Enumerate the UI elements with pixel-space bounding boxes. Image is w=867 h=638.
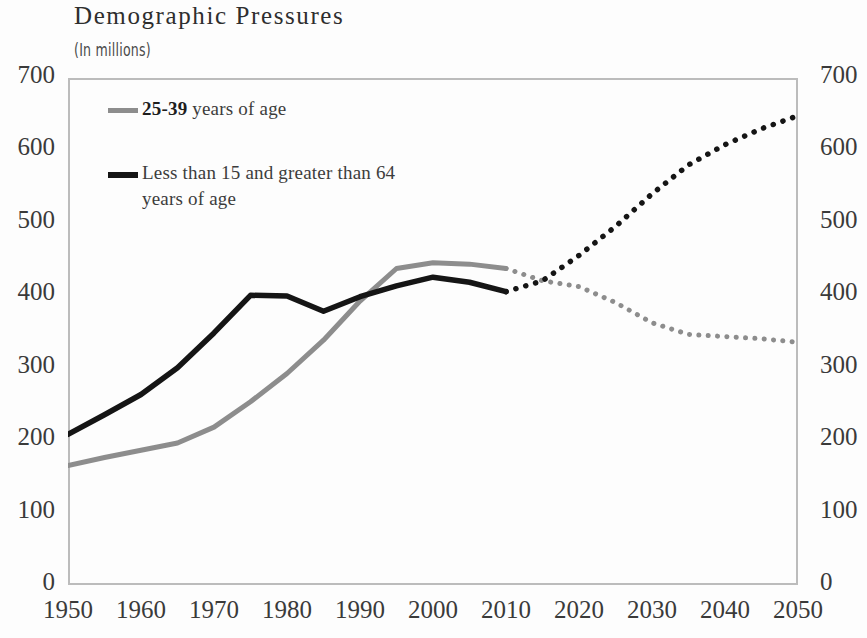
legend-item-young-adults: 25-39 years of age bbox=[108, 96, 548, 122]
x-axis-tick-label: 1950 bbox=[43, 596, 93, 624]
y-axis-tick-label-left: 100 bbox=[18, 496, 56, 524]
legend-label-dependents: Less than 15 and greater than 64 years o… bbox=[142, 160, 395, 212]
y-axis-tick-label-left: 0 bbox=[43, 568, 56, 596]
y-axis-tick-label-right: 300 bbox=[820, 351, 858, 379]
y-axis-tick-label-left: 400 bbox=[18, 278, 56, 306]
chart-legend: 25-39 years of age Less than 15 and grea… bbox=[108, 96, 548, 212]
x-axis-tick-label: 2010 bbox=[481, 596, 531, 624]
x-axis-tick-label: 1980 bbox=[262, 596, 312, 624]
y-axis-tick-label-right: 600 bbox=[820, 133, 858, 161]
x-axis-tick-label: 1970 bbox=[189, 596, 239, 624]
y-axis-tick-label-left: 600 bbox=[18, 133, 56, 161]
y-axis-tick-label-right: 0 bbox=[820, 568, 833, 596]
x-axis-tick-label: 2030 bbox=[627, 596, 677, 624]
legend-label-young-adults: 25-39 years of age bbox=[142, 96, 286, 122]
y-axis-tick-label-right: 400 bbox=[820, 278, 858, 306]
series-line-solid bbox=[68, 263, 506, 466]
y-axis-tick-label-right: 500 bbox=[820, 206, 858, 234]
x-axis-tick-label: 2020 bbox=[554, 596, 604, 624]
gray-line-swatch bbox=[108, 108, 138, 113]
y-axis-tick-label-left: 700 bbox=[18, 61, 56, 89]
series-line-projection-dotted bbox=[506, 268, 798, 342]
chart-page: Demographic Pressures (In millions) 7006… bbox=[0, 0, 867, 638]
page-title: Demographic Pressures bbox=[74, 2, 344, 30]
black-line-swatch bbox=[108, 172, 138, 178]
series-line-projection-dotted bbox=[506, 116, 798, 292]
legend-label-bold-part: 25-39 bbox=[142, 98, 187, 119]
y-axis-tick-label-left: 300 bbox=[18, 351, 56, 379]
y-axis-tick-label-left: 500 bbox=[18, 206, 56, 234]
legend-label-rest-part: years of age bbox=[187, 98, 286, 119]
y-axis-tick-label-right: 700 bbox=[820, 61, 858, 89]
series-line-solid bbox=[68, 277, 506, 434]
x-axis-tick-label: 1990 bbox=[335, 596, 385, 624]
y-axis-tick-label-right: 200 bbox=[820, 423, 858, 451]
x-axis-tick-label: 1960 bbox=[116, 596, 166, 624]
y-axis-tick-label-right: 100 bbox=[820, 496, 858, 524]
chart-subtitle: (In millions) bbox=[74, 40, 151, 60]
legend-item-dependents: Less than 15 and greater than 64 years o… bbox=[108, 160, 548, 212]
y-axis-tick-label-left: 200 bbox=[18, 423, 56, 451]
x-axis-tick-label: 2040 bbox=[700, 596, 750, 624]
x-axis-tick-label: 2000 bbox=[408, 596, 458, 624]
x-axis-tick-label: 2050 bbox=[773, 596, 823, 624]
